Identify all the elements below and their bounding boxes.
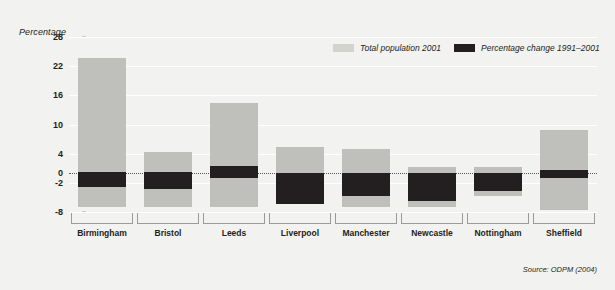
chart-legend: Total population 2001 Percentage change … bbox=[333, 42, 613, 54]
x-axis-label-sheffield: Sheffield bbox=[531, 228, 597, 238]
bar-percentage-change bbox=[144, 172, 192, 189]
legend-swatch-light-icon bbox=[333, 44, 354, 52]
bar-percentage-change bbox=[210, 166, 258, 178]
y-tick-label: 22 bbox=[23, 61, 63, 71]
category-bracket bbox=[203, 213, 265, 224]
legend-label-total-population: Total population 2001 bbox=[360, 43, 441, 53]
x-axis-label-newcastle: Newcastle bbox=[399, 228, 465, 238]
bar-group bbox=[144, 37, 192, 212]
x-axis-label-manchester: Manchester bbox=[333, 228, 399, 238]
plot-area bbox=[69, 37, 597, 212]
legend-swatch-dark-icon bbox=[454, 44, 475, 52]
x-axis-label-liverpool: Liverpool bbox=[267, 228, 333, 238]
category-bracket bbox=[137, 213, 199, 224]
category-bracket bbox=[401, 213, 463, 224]
bar-percentage-change bbox=[540, 170, 588, 178]
bar-group bbox=[210, 37, 258, 212]
category-bracket bbox=[269, 213, 331, 224]
bar-total-population bbox=[210, 103, 258, 208]
population-change-bar-chart: Percentage 2822161040-2-8 Total populati… bbox=[0, 0, 615, 290]
x-axis-label-birmingham: Birmingham bbox=[69, 228, 135, 238]
x-axis-label-nottingham: Nottingham bbox=[465, 228, 531, 238]
category-axis-boxes bbox=[69, 213, 597, 225]
bar-group bbox=[78, 37, 126, 212]
y-tick-label: 0 bbox=[23, 168, 63, 178]
y-tick-label: -8 bbox=[23, 207, 63, 217]
y-tick-label: 16 bbox=[23, 90, 63, 100]
source-note: Source: ODPM (2004) bbox=[523, 265, 597, 274]
bar-group bbox=[276, 37, 324, 212]
bar-percentage-change bbox=[276, 173, 324, 204]
bar-group bbox=[540, 37, 588, 212]
category-bracket bbox=[335, 213, 397, 224]
bar-percentage-change bbox=[78, 172, 126, 187]
legend-label-percentage-change: Percentage change 1991–2001 bbox=[481, 43, 600, 53]
legend-item-percentage-change: Percentage change 1991–2001 bbox=[454, 43, 600, 53]
bar-percentage-change bbox=[408, 173, 456, 201]
y-tick-label: -2 bbox=[23, 178, 63, 188]
y-tick-label: 28 bbox=[23, 32, 63, 42]
y-axis-ticks: 2822161040-2-8 bbox=[19, 37, 63, 212]
y-tick-label: 4 bbox=[23, 149, 63, 159]
bar-group bbox=[474, 37, 522, 212]
bar-percentage-change bbox=[342, 173, 390, 196]
category-axis-labels: BirminghamBristolLeedsLiverpoolMancheste… bbox=[69, 228, 597, 242]
y-tick-label: 10 bbox=[23, 120, 63, 130]
bar-percentage-change bbox=[474, 173, 522, 191]
x-axis-label-bristol: Bristol bbox=[135, 228, 201, 238]
x-axis-label-leeds: Leeds bbox=[201, 228, 267, 238]
category-bracket bbox=[467, 213, 529, 224]
bar-group bbox=[342, 37, 390, 212]
bar-group bbox=[408, 37, 456, 212]
category-bracket bbox=[71, 213, 133, 224]
category-bracket bbox=[533, 213, 595, 224]
legend-item-total-population: Total population 2001 bbox=[333, 43, 441, 53]
